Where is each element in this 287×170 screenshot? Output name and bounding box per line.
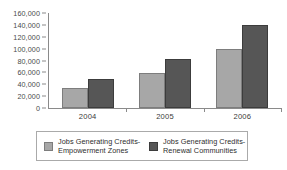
y-axis: 160,000140,000120,000100,00080,00060,000… [0,8,48,109]
plot-area: 160,000140,000120,000100,00080,00060,000… [0,0,287,126]
y-axis-tick-mark [42,48,46,49]
legend-item-renewal-communities: Jobs Generating Credits- Renewal Communi… [142,137,247,156]
y-axis-tick-mark [42,36,46,37]
y-axis-tick-label: 80,000 [17,56,40,65]
y-axis-tick-label: 0 [36,104,40,113]
y-axis-tick-mark [42,13,46,14]
y-axis-tick-label: 40,000 [17,80,40,89]
x-axis-separator [204,108,205,112]
bar-group [62,13,114,108]
y-axis-tick-mark [42,84,46,85]
bar-series-1-2005 [165,59,191,108]
y-axis-tick-label: 60,000 [17,68,40,77]
bar-series-1-2004 [88,79,114,108]
bar-chart-figure: 160,000140,000120,000100,00080,00060,000… [0,0,287,170]
y-axis-tick-mark [42,24,46,25]
y-axis-tick-label: 20,000 [17,92,40,101]
bar-series-0-2005 [139,73,165,108]
legend-label-series-1: Jobs Generating Credits- Renewal Communi… [163,137,245,156]
bar-series-0-2004 [62,88,88,108]
y-axis-tick-label: 120,000 [13,32,40,41]
x-axis-separator [281,108,282,112]
bar-series-0-2006 [216,49,242,108]
x-axis-separator [126,108,127,112]
y-axis-tick-mark [42,108,46,109]
y-axis-tick-label: 140,000 [13,20,40,29]
bar-group [216,13,268,108]
legend-swatch-icon-series-0 [44,142,53,151]
bar-series-1-2006 [242,25,268,108]
y-axis-tick-mark [42,96,46,97]
y-axis-tick-label: 160,000 [13,9,40,18]
y-axis-tick-mark [42,72,46,73]
y-axis-tick-label: 100,000 [13,44,40,53]
x-axis-label-2004: 2004 [58,112,118,121]
chart-legend: Jobs Generating Credits- Empowerment Zon… [36,131,248,161]
bars-layer [49,13,281,108]
x-axis-line [48,108,281,109]
bar-group [139,13,191,108]
x-axis-label-2006: 2006 [212,112,272,121]
legend-swatch-icon-series-1 [149,142,158,151]
y-axis-tick-mark [42,60,46,61]
x-axis-label-2005: 2005 [135,112,195,121]
legend-item-empowerment-zones: Jobs Generating Credits- Empowerment Zon… [37,137,142,156]
legend-label-series-0: Jobs Generating Credits- Empowerment Zon… [58,137,140,156]
